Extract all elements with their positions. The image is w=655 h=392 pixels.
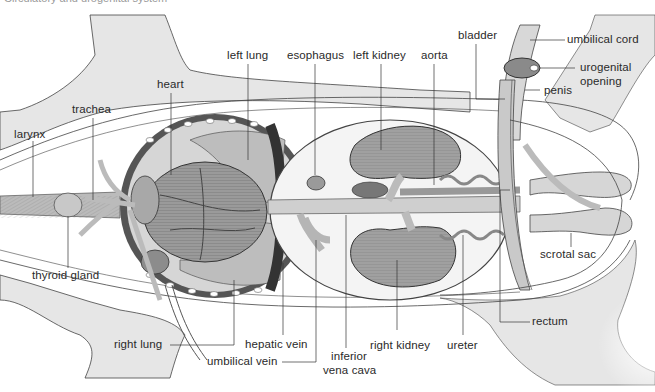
scrotal-sac-upper: [530, 172, 631, 197]
label-larynx: larynx: [14, 128, 45, 141]
label-umbilical-cord: umbilical cord: [567, 33, 639, 46]
anatomy-diagram: Circulatory and urogenital system: [0, 0, 655, 392]
scrotal-sac-lower: [530, 208, 632, 235]
label-scrotal-sac: scrotal sac: [540, 248, 596, 261]
label-urogenital-opening-line2: opening: [580, 75, 622, 88]
label-umbilical-vein: umbilical vein: [207, 355, 277, 368]
esophagus-cut: [307, 176, 325, 190]
label-left-lung: left lung: [227, 49, 268, 62]
label-ureter: ureter: [447, 339, 478, 352]
label-right-lung: right lung: [114, 338, 162, 351]
label-aorta: aorta: [421, 49, 448, 62]
label-inferior-vena-cava-line1: inferior: [331, 350, 367, 363]
label-bladder: bladder: [458, 29, 497, 42]
label-trachea: trachea: [72, 103, 111, 116]
thyroid-gland: [54, 193, 82, 217]
label-urogenital-opening-line1: urogenital: [580, 61, 632, 74]
label-hepatic-vein: hepatic vein: [245, 338, 308, 351]
label-rectum: rectum: [532, 315, 568, 328]
label-left-kidney: left kidney: [353, 49, 406, 62]
label-right-kidney: right kidney: [370, 339, 430, 352]
label-esophagus: esophagus: [287, 49, 344, 62]
label-heart: heart: [157, 78, 184, 91]
label-thyroid-gland: thyroid gland: [32, 269, 99, 282]
label-inferior-vena-cava-line2: vena cava: [323, 364, 376, 377]
label-penis: penis: [544, 84, 572, 97]
